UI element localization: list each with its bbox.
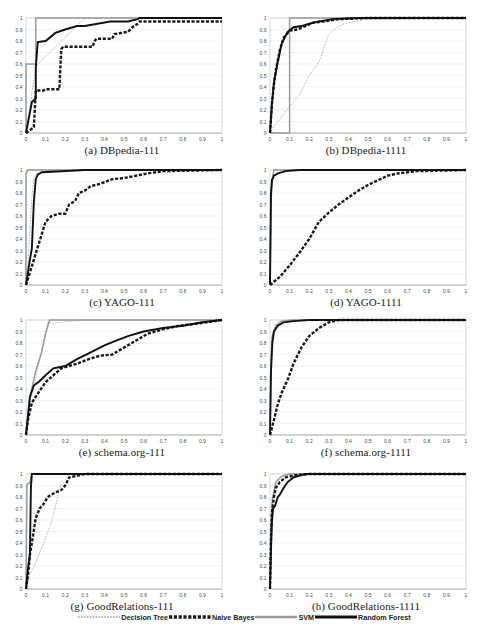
svg-text:0.8: 0.8 (16, 38, 23, 44)
svg-text:0.9: 0.9 (16, 483, 23, 489)
svg-text:1: 1 (465, 136, 468, 142)
svg-text:0.6: 0.6 (16, 61, 23, 67)
legend-label: Random Forest (358, 613, 411, 622)
roc-plot-b: 00.10.20.30.40.50.60.70.80.9100.10.20.30… (244, 10, 488, 142)
legend-item-decision-tree: Decision Tree (77, 612, 168, 622)
roc-panel-g: 00.10.20.30.40.50.60.70.80.9100.10.20.30… (0, 466, 244, 616)
svg-text:0.9: 0.9 (16, 329, 23, 335)
svg-text:0.4: 0.4 (345, 288, 352, 294)
svg-text:0.8: 0.8 (179, 288, 186, 294)
y-axis-ticks: 00.10.20.30.40.50.60.70.80.91 (16, 317, 23, 438)
legend-swatch-solid-gray (254, 613, 298, 621)
svg-text:0.8: 0.8 (423, 592, 430, 598)
svg-text:0.5: 0.5 (121, 136, 128, 142)
y-axis-ticks: 00.10.20.30.40.50.60.70.80.91 (16, 167, 23, 288)
svg-text:0.8: 0.8 (423, 288, 430, 294)
svg-text:0.5: 0.5 (121, 288, 128, 294)
y-axis-ticks: 00.10.20.30.40.50.60.70.80.91 (16, 471, 23, 592)
legend-swatch-solid-black (314, 613, 358, 621)
roc-panel-a: 00.10.20.30.40.50.60.70.80.9100.10.20.30… (0, 10, 244, 160)
svg-text:0.6: 0.6 (384, 288, 391, 294)
svg-text:0.4: 0.4 (260, 236, 267, 242)
svg-text:0.7: 0.7 (16, 202, 23, 208)
svg-text:0.1: 0.1 (42, 288, 49, 294)
svg-text:0.9: 0.9 (16, 179, 23, 185)
grid-lines (270, 320, 466, 435)
x-axis-ticks: 00.10.20.30.40.50.60.70.80.91 (25, 136, 224, 142)
legend-label: Naive Bayes (212, 613, 254, 622)
svg-text:0.5: 0.5 (16, 73, 23, 79)
svg-text:0.5: 0.5 (260, 225, 267, 231)
svg-text:1: 1 (264, 15, 267, 21)
svg-text:0.7: 0.7 (160, 592, 167, 598)
svg-text:0: 0 (269, 136, 272, 142)
svg-text:0.9: 0.9 (199, 136, 206, 142)
panel-caption-h: (h) GoodRelations-1111 (244, 600, 488, 612)
svg-text:0.6: 0.6 (384, 438, 391, 444)
roc-plot-f: 00.10.20.30.40.50.60.70.80.9100.10.20.30… (244, 312, 488, 444)
panel-caption-b: (b) DBpedia-1111 (244, 144, 488, 156)
svg-text:0.6: 0.6 (16, 363, 23, 369)
grid-lines (270, 170, 466, 285)
svg-text:0.5: 0.5 (260, 375, 267, 381)
svg-text:0.7: 0.7 (260, 506, 267, 512)
svg-text:0.2: 0.2 (306, 136, 313, 142)
svg-text:0.9: 0.9 (199, 438, 206, 444)
svg-text:0.5: 0.5 (365, 438, 372, 444)
svg-text:0.3: 0.3 (81, 438, 88, 444)
legend-swatch-dashed-bold (168, 613, 212, 621)
svg-text:0.3: 0.3 (260, 248, 267, 254)
svg-text:1: 1 (264, 471, 267, 477)
svg-text:0.1: 0.1 (42, 438, 49, 444)
svg-text:0.8: 0.8 (260, 38, 267, 44)
svg-text:0.2: 0.2 (62, 136, 69, 142)
svg-text:0: 0 (20, 282, 23, 288)
svg-text:0: 0 (25, 288, 28, 294)
x-axis-ticks: 00.10.20.30.40.50.60.70.80.91 (25, 288, 224, 294)
svg-text:0.2: 0.2 (306, 288, 313, 294)
svg-text:0.4: 0.4 (260, 386, 267, 392)
svg-text:0.1: 0.1 (16, 271, 23, 277)
svg-text:0.3: 0.3 (260, 96, 267, 102)
svg-text:0.9: 0.9 (199, 288, 206, 294)
svg-text:1: 1 (20, 167, 23, 173)
panel-caption-a: (a) DBpedia-111 (0, 144, 244, 156)
svg-text:0.1: 0.1 (260, 119, 267, 125)
svg-text:0.7: 0.7 (404, 592, 411, 598)
svg-text:0.6: 0.6 (140, 288, 147, 294)
grid-lines (26, 18, 222, 133)
svg-text:0.2: 0.2 (306, 438, 313, 444)
svg-text:0.1: 0.1 (286, 288, 293, 294)
svg-text:0: 0 (269, 592, 272, 598)
svg-text:0.5: 0.5 (121, 438, 128, 444)
svg-text:0.2: 0.2 (306, 592, 313, 598)
svg-text:0.8: 0.8 (16, 190, 23, 196)
svg-text:0.3: 0.3 (325, 438, 332, 444)
svg-text:0.5: 0.5 (16, 225, 23, 231)
y-axis-ticks: 00.10.20.30.40.50.60.70.80.91 (260, 167, 267, 288)
svg-text:0.9: 0.9 (260, 483, 267, 489)
svg-text:0: 0 (25, 136, 28, 142)
svg-text:0.4: 0.4 (345, 136, 352, 142)
legend-item-naive-bayes: Naive Bayes (168, 612, 254, 622)
svg-text:0.8: 0.8 (260, 494, 267, 500)
svg-text:0.4: 0.4 (101, 136, 108, 142)
svg-text:0.6: 0.6 (260, 517, 267, 523)
svg-text:1: 1 (221, 592, 224, 598)
x-axis-ticks: 00.10.20.30.40.50.60.70.80.91 (269, 592, 468, 598)
svg-text:0.2: 0.2 (16, 259, 23, 265)
legend-swatch-dotted-light (77, 613, 121, 621)
svg-text:0.6: 0.6 (260, 61, 267, 67)
svg-text:0.2: 0.2 (260, 409, 267, 415)
svg-text:0.9: 0.9 (260, 179, 267, 185)
svg-text:0.3: 0.3 (81, 592, 88, 598)
svg-text:0.2: 0.2 (62, 592, 69, 598)
svg-text:0.8: 0.8 (179, 592, 186, 598)
svg-text:0.5: 0.5 (365, 288, 372, 294)
svg-text:0.8: 0.8 (16, 340, 23, 346)
svg-text:0.1: 0.1 (16, 119, 23, 125)
svg-text:1: 1 (221, 438, 224, 444)
svg-text:0.1: 0.1 (42, 136, 49, 142)
svg-text:0.8: 0.8 (260, 190, 267, 196)
svg-text:0.2: 0.2 (16, 107, 23, 113)
